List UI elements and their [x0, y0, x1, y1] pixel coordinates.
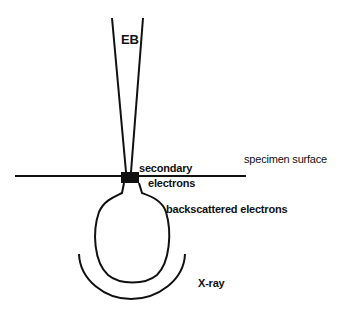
backscattered-electrons-label: backscattered electrons	[166, 203, 287, 215]
beam-label: EB	[121, 32, 139, 47]
secondary-electrons-label-line1: secondary	[139, 162, 192, 174]
xray-label: X-ray	[198, 277, 225, 289]
secondary-electrons-label-line2: electrons	[148, 177, 195, 189]
backscattered-electron-volume	[95, 183, 169, 283]
xray-region-arc	[79, 254, 185, 299]
secondary-electron-region	[121, 172, 139, 183]
specimen-surface-label: specimen surface	[244, 153, 327, 165]
